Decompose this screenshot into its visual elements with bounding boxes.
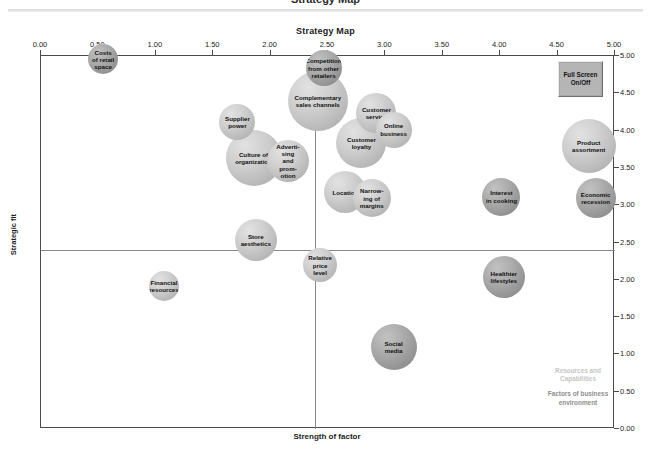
bubble-label: Product assortment [572, 139, 605, 154]
x-axis-tick-label: 2.00 [262, 40, 277, 49]
bubble-label: Supplier power [225, 115, 250, 130]
bubble-data-point[interactable]: Store aesthetics [235, 219, 277, 261]
y-axis-tick-label: 0.50 [620, 386, 635, 395]
bubble-data-point[interactable]: Narrow- ing of margins [353, 179, 391, 217]
x-axis-tick-mark [499, 50, 500, 55]
y-axis-tick-mark [614, 92, 619, 93]
bubble-label: Narrow- ing of margins [360, 187, 384, 209]
x-axis-tick-label: 2.50 [320, 40, 335, 49]
x-axis-tick-label: 5.00 [607, 40, 622, 49]
bubble-data-point[interactable]: Online business [376, 112, 412, 148]
y-axis-tick-label: 5.00 [620, 51, 635, 60]
x-axis-tick-label: 1.00 [147, 40, 162, 49]
y-axis-tick-mark [614, 279, 619, 280]
bubble-data-point[interactable]: Product assortment [562, 119, 616, 173]
fullscreen-toggle-label: Full Screen On/Off [559, 71, 602, 88]
y-axis-tick-label: 1.50 [620, 312, 635, 321]
bubble-data-point[interactable]: Social media [371, 324, 417, 370]
clipped-page-header-text: Strategy Map [0, 0, 651, 5]
bubble-label: Competition from other retailers [306, 57, 342, 79]
x-axis-tick-label: 3.00 [377, 40, 392, 49]
x-axis-tick-label: 4.00 [492, 40, 507, 49]
y-axis-tick-mark [614, 353, 619, 354]
bubble-label: Adverti- sing and prom- otion [276, 143, 299, 180]
y-axis-tick-label: 3.50 [620, 162, 635, 171]
bubble-label: Costs of retail space [92, 49, 114, 71]
bubble-label: Economic recession [581, 191, 611, 206]
bubble-label: Financial resources [149, 279, 179, 294]
x-axis-tick-mark [442, 50, 443, 55]
bubble-label: Interest in cooking [486, 189, 517, 204]
bubble-label: Healthier lifestyles [491, 270, 517, 285]
x-axis-tick-label: 0.00 [33, 40, 48, 49]
bubble-data-point[interactable]: Economic recession [576, 178, 616, 218]
y-axis-title: Strategic fit [9, 200, 18, 270]
y-axis-tick-mark [614, 316, 619, 317]
y-axis-tick-mark [614, 391, 619, 392]
bubble-label: Customer loyalty [347, 136, 376, 151]
bubble-label: Online business [380, 122, 407, 137]
legend-item-resources: Resources and Capabilities [523, 367, 633, 384]
x-axis-tick-label: 1.50 [205, 40, 220, 49]
x-axis-tick-mark [557, 50, 558, 55]
bubble-data-point[interactable]: Adverti- sing and prom- otion [267, 140, 309, 182]
x-axis-tick-mark [384, 50, 385, 55]
bubble-label: Complementary sales channels [294, 94, 341, 109]
bubble-label: Relative price level [308, 254, 332, 276]
x-axis-title: Strength of factor [40, 432, 614, 441]
clipped-page-header: Strategy Map [0, 0, 651, 8]
y-axis-tick-mark [614, 428, 619, 429]
y-axis-tick-label: 2.50 [620, 237, 635, 246]
y-axis-tick-label: 2.00 [620, 274, 635, 283]
x-axis-tick-mark [270, 50, 271, 55]
x-axis-tick-label: 3.50 [434, 40, 449, 49]
y-axis-tick-mark [614, 167, 619, 168]
y-axis-tick-mark [614, 130, 619, 131]
bubble-data-point[interactable]: Interest in cooking [482, 178, 520, 216]
x-axis-tick-mark [40, 50, 41, 55]
bubble-data-point[interactable]: Competition from other retailers [306, 50, 342, 86]
header-divider [8, 9, 643, 12]
y-axis-tick-label: 3.00 [620, 200, 635, 209]
y-axis-tick-label: 1.00 [620, 349, 635, 358]
legend-item-factors: Factors of business environment [523, 390, 633, 407]
y-axis-tick-label: 4.00 [620, 125, 635, 134]
fullscreen-toggle-button[interactable]: Full Screen On/Off [558, 61, 603, 97]
bubble-data-point[interactable]: Healthier lifestyles [483, 256, 525, 298]
bubble-label: Social media [384, 340, 402, 355]
y-axis-tick-label: 4.50 [620, 88, 635, 97]
bubble-label: Store aesthetics [241, 233, 271, 248]
y-axis-tick-label: 0.00 [620, 424, 635, 433]
chart-title: Strategy Map [0, 26, 651, 36]
x-axis-tick-mark [212, 50, 213, 55]
x-axis-tick-label: 4.50 [549, 40, 564, 49]
x-axis-tick-mark [155, 50, 156, 55]
y-axis-tick-mark [614, 55, 619, 56]
y-axis-tick-mark [614, 242, 619, 243]
